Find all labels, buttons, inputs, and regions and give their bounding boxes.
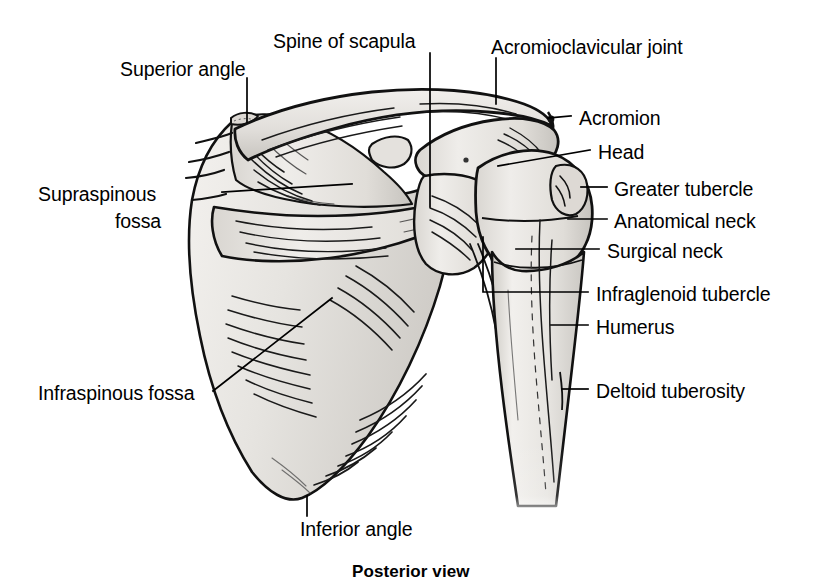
coracoid-process xyxy=(369,137,411,168)
figure-caption: Posterior view xyxy=(352,562,470,582)
label-surgical-neck: Surgical neck xyxy=(607,240,723,263)
label-head: Head xyxy=(598,141,644,164)
label-acromioclavicular-joint: Acromioclavicular joint xyxy=(491,36,683,59)
label-spine-of-scapula: Spine of scapula xyxy=(273,30,416,53)
label-supraspinous-fossa-line2: fossa xyxy=(115,210,161,233)
label-anatomical-neck: Anatomical neck xyxy=(614,210,756,233)
label-superior-angle: Superior angle xyxy=(120,58,245,81)
greater-tubercle xyxy=(550,165,587,215)
label-deltoid-tuberosity: Deltoid tuberosity xyxy=(596,380,745,403)
label-infraglenoid-tubercle: Infraglenoid tubercle xyxy=(596,283,771,306)
anatomy-figure: Superior angle Spine of scapula Acromioc… xyxy=(0,0,827,588)
label-inferior-angle: Inferior angle xyxy=(300,518,412,541)
humerus-shaft xyxy=(486,220,594,520)
label-acromion: Acromion xyxy=(579,107,661,130)
label-greater-tubercle: Greater tubercle xyxy=(614,178,753,201)
label-infraspinous-fossa: Infraspinous fossa xyxy=(38,382,194,405)
label-humerus: Humerus xyxy=(596,316,674,339)
label-supraspinous-fossa-line1: Supraspinous xyxy=(38,183,156,206)
